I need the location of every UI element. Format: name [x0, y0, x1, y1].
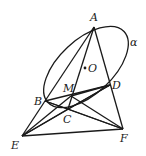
- geometry-diagram: A O α B M D C E F: [0, 0, 146, 156]
- label-alpha: α: [130, 36, 138, 49]
- label-O: O: [88, 62, 97, 75]
- segment-EF: [22, 129, 123, 136]
- label-C: C: [63, 113, 72, 126]
- label-D: D: [111, 79, 121, 92]
- point-O-dot: [84, 67, 87, 70]
- label-A: A: [89, 11, 98, 24]
- label-B: B: [33, 95, 42, 108]
- label-F: F: [119, 132, 128, 145]
- label-M: M: [62, 82, 75, 95]
- label-E: E: [10, 139, 19, 152]
- segment-MD: [71, 85, 110, 96]
